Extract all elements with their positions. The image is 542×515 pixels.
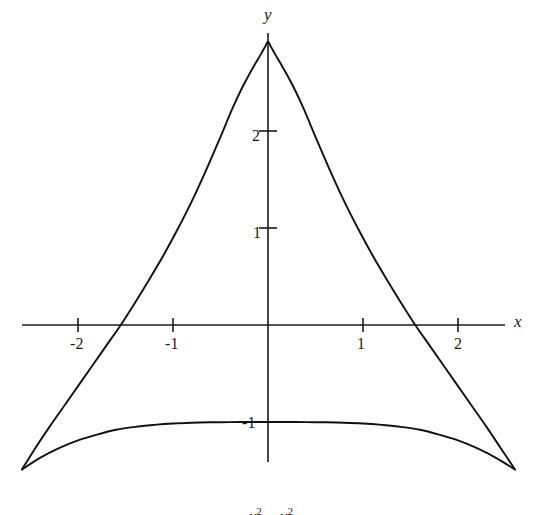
x-axis-label: x <box>514 313 522 330</box>
x-tick-label--1: -1 <box>165 336 179 352</box>
x-tick-label-1: 1 <box>357 336 365 352</box>
x-tick-label--2: -2 <box>70 336 84 352</box>
plot-svg <box>0 0 542 515</box>
y-tick-label--1: -1 <box>242 415 256 431</box>
axis-group <box>22 33 505 462</box>
y-tick-label-2: 2 <box>252 128 260 144</box>
figure-canvas: -2 -1 1 2 2 1 -1 x y x2 − y2 <box>0 0 542 515</box>
caption-clipped: x2 − y2 <box>0 505 542 515</box>
y-tick-label-1: 1 <box>253 225 261 241</box>
y-axis-label: y <box>264 6 272 23</box>
x-tick-label-2: 2 <box>454 336 462 352</box>
